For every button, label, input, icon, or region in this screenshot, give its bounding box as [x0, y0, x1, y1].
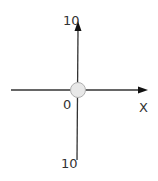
- axes-diagram: 10 0 X 10: [0, 0, 158, 181]
- y-top-label: 10: [63, 13, 80, 28]
- origin-label: 0: [63, 97, 71, 112]
- x-axis-arrow-icon: [138, 87, 148, 94]
- origin-point: [71, 83, 86, 98]
- x-axis-label: X: [139, 100, 148, 115]
- y-bottom-label: 10: [61, 156, 78, 171]
